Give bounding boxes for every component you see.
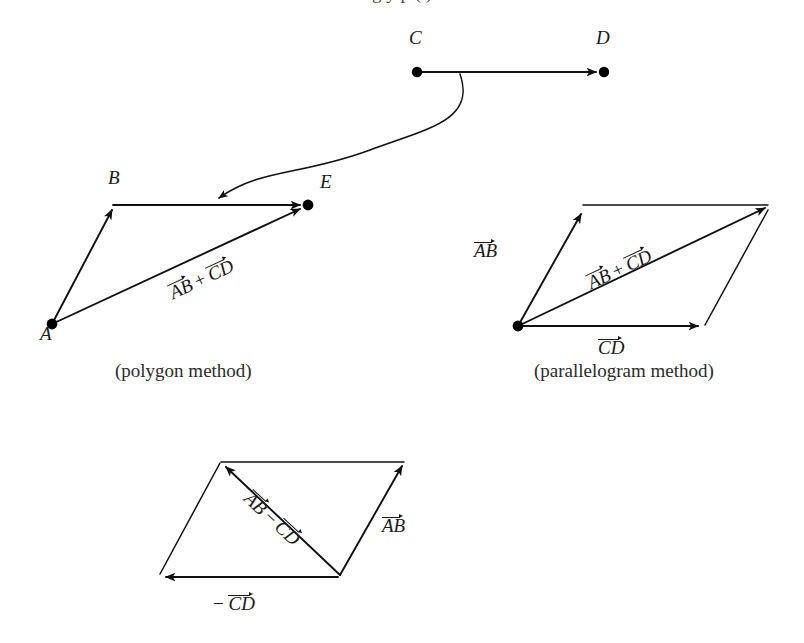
label-point-c: C: [409, 28, 422, 47]
point-c-dot: [412, 67, 422, 77]
parallelogram-cd-label: CD: [598, 336, 624, 357]
diagram-canvas: [0, 0, 804, 643]
vector-addition-figure: g y p ( ): [0, 0, 804, 643]
point-d-dot: [599, 67, 609, 77]
vector-ab-glyph: AB: [474, 239, 497, 260]
vector-ab-glyph: AB: [382, 514, 405, 535]
subtraction-negcd-label: − CD: [213, 592, 255, 613]
polygon-method-group: [47, 200, 314, 330]
minus-sign: −: [213, 593, 228, 614]
parallelogram-right-side: [705, 210, 768, 325]
vector-cd-glyph: CD: [228, 592, 254, 613]
parallelogram-method-caption: (parallelogram method): [534, 361, 714, 380]
polygon-resultant-arrow: [52, 209, 300, 324]
polygon-method-caption: (polygon method): [115, 361, 252, 380]
polygon-ab-arrow: [52, 210, 112, 324]
subtraction-negcd-term: CD: [228, 593, 254, 614]
label-point-b: B: [108, 168, 120, 187]
cd-source-group: [412, 67, 609, 77]
parallelogram-origin-dot: [513, 321, 524, 332]
label-point-d: D: [596, 28, 610, 47]
subtraction-ab-label: AB: [382, 514, 405, 535]
label-point-a: A: [40, 324, 52, 343]
transfer-curve-group: [219, 74, 463, 198]
vector-cd-glyph: CD: [598, 336, 624, 357]
parallelogram-ab-arrow: [518, 214, 581, 326]
point-e-dot: [303, 200, 314, 211]
parallelogram-ab-label: AB: [474, 239, 497, 260]
transfer-curve-arrow: [219, 74, 463, 198]
subtraction-left-side: [160, 463, 220, 574]
label-point-e: E: [320, 172, 332, 191]
